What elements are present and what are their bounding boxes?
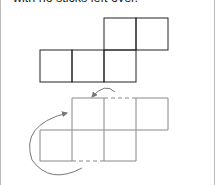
matchstick-diagram	[0, 0, 218, 185]
moved-shape	[40, 98, 168, 161]
large-arrow	[30, 113, 82, 175]
original-shape	[40, 18, 168, 82]
small-arrow	[92, 88, 115, 97]
